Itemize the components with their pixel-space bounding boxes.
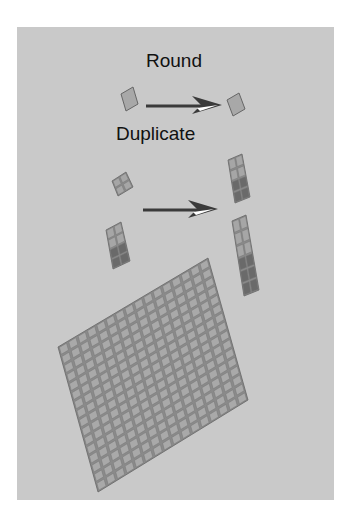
duplicate-result-column-long [232, 215, 259, 296]
round-result-tile [227, 93, 245, 116]
round-source-tile [121, 87, 138, 111]
round-arrow-icon [146, 96, 222, 114]
tile-grid [58, 258, 248, 492]
duplicate-source-block [112, 172, 133, 196]
duplicate-arrow-icon [143, 200, 218, 218]
duplicate-result-column-short [228, 154, 250, 203]
diagram-artwork [0, 0, 355, 517]
duplicate-source-column [106, 222, 130, 269]
